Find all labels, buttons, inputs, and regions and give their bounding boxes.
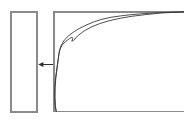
- curve-layer: [55, 12, 184, 111]
- arrow-head-icon: [38, 62, 43, 67]
- figure-root: [0, 0, 184, 122]
- data-curve-upper-envelope: [55, 12, 184, 111]
- left-panel-box: [11, 12, 37, 112]
- right-panel-frame: [53, 11, 184, 112]
- leftward-arrow: [38, 62, 52, 67]
- data-curve-lower-envelope: [55, 12, 184, 111]
- figure-canvas: [0, 0, 184, 122]
